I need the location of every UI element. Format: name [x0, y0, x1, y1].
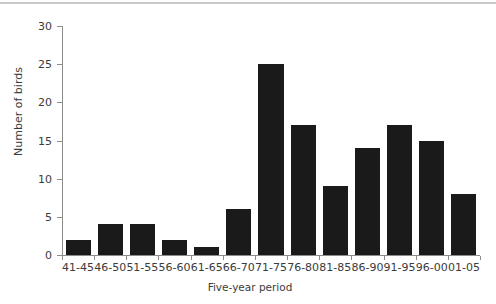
- bar: [130, 224, 155, 255]
- x-axis-title: Five-year period: [0, 281, 496, 293]
- x-tick-mark: [94, 256, 95, 260]
- x-tick-mark: [287, 256, 288, 260]
- y-axis-line: [62, 26, 63, 256]
- x-tick-label: 01-05: [448, 262, 480, 274]
- x-tick-label: 96-00: [416, 262, 448, 274]
- bar: [323, 186, 348, 255]
- bar: [291, 125, 316, 255]
- bar: [226, 209, 251, 255]
- x-tick-mark: [126, 256, 127, 260]
- y-tick-label: 20: [0, 97, 52, 108]
- y-tick-label: 15: [0, 136, 52, 147]
- x-tick-label: 41-45: [62, 262, 94, 274]
- x-tick-mark: [255, 256, 256, 260]
- x-tick-mark: [62, 256, 63, 260]
- y-tick-mark: [57, 102, 62, 103]
- bar: [258, 64, 283, 255]
- x-tick-label: 51-55: [126, 262, 158, 274]
- y-tick-label: 30: [0, 21, 52, 32]
- x-tick-mark: [191, 256, 192, 260]
- bar: [451, 194, 476, 255]
- x-tick-label: 61-65: [191, 262, 223, 274]
- bar: [98, 224, 123, 255]
- y-tick-label: 10: [0, 174, 52, 185]
- x-tick-mark: [351, 256, 352, 260]
- y-tick-label: 5: [0, 212, 52, 223]
- bar: [162, 240, 187, 255]
- top-divider-rule: [0, 2, 496, 4]
- x-tick-label: 91-95: [384, 262, 416, 274]
- bar: [419, 141, 444, 256]
- x-tick-mark: [448, 256, 449, 260]
- bar: [66, 240, 91, 255]
- x-tick-label: 76-80: [287, 262, 319, 274]
- bar: [387, 125, 412, 255]
- x-tick-mark: [416, 256, 417, 260]
- x-tick-mark: [319, 256, 320, 260]
- y-tick-mark: [57, 64, 62, 65]
- y-tick-mark: [57, 217, 62, 218]
- x-tick-label: 66-70: [223, 262, 255, 274]
- x-tick-label: 81-85: [319, 262, 351, 274]
- bar: [194, 247, 219, 255]
- x-axis-line: [62, 255, 480, 256]
- x-tick-label: 86-90: [351, 262, 383, 274]
- bar-chart-figure: 051015202530 Number of birds 41-4546-505…: [0, 0, 496, 304]
- y-axis-labels: 051015202530: [0, 0, 52, 304]
- y-tick-label: 0: [0, 250, 52, 261]
- y-tick-mark: [57, 26, 62, 27]
- x-tick-label: 46-50: [94, 262, 126, 274]
- y-tick-mark: [57, 141, 62, 142]
- bar: [355, 148, 380, 255]
- x-tick-mark: [158, 256, 159, 260]
- y-axis-title: Number of birds: [12, 47, 25, 177]
- x-axis-title-text: Five-year period: [208, 281, 293, 293]
- y-tick-label: 25: [0, 59, 52, 70]
- x-tick-label: 56-60: [158, 262, 190, 274]
- x-tick-mark: [480, 256, 481, 260]
- x-tick-mark: [223, 256, 224, 260]
- y-tick-mark: [57, 179, 62, 180]
- x-tick-label: 71-75: [255, 262, 287, 274]
- x-tick-mark: [384, 256, 385, 260]
